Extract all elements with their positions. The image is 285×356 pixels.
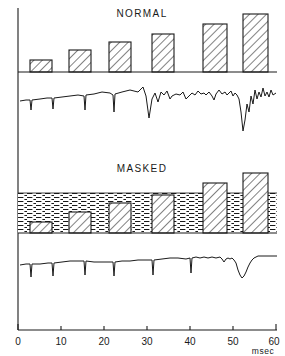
canvas-background: [0, 0, 285, 356]
axis-tick-label: 20: [98, 336, 110, 347]
axis-tick-label: 30: [141, 336, 153, 347]
bar: [69, 50, 91, 72]
axis-unit-label: msec: [252, 346, 275, 356]
bar: [109, 42, 131, 72]
bar: [152, 34, 174, 72]
bar: [243, 14, 268, 72]
bar: [109, 203, 131, 233]
bar: [69, 212, 91, 233]
panel-title-masked: MASKED: [117, 163, 168, 174]
bar: [203, 24, 227, 72]
bar: [30, 222, 52, 233]
figure-svg: NORMAL MASKED 0 10 20 30: [0, 0, 285, 356]
axis-tick-label: 0: [15, 336, 21, 347]
figure-root: NORMAL MASKED 0 10 20 30: [0, 0, 285, 356]
bar: [152, 195, 174, 233]
masking-noise-band: [18, 193, 277, 233]
axis-tick-label: 40: [184, 336, 196, 347]
panel-title-normal: NORMAL: [116, 8, 167, 19]
bar: [203, 183, 227, 233]
bar: [30, 60, 52, 72]
axis-tick-label: 10: [55, 336, 67, 347]
axis-tick-label: 50: [227, 336, 239, 347]
bar: [243, 173, 268, 233]
